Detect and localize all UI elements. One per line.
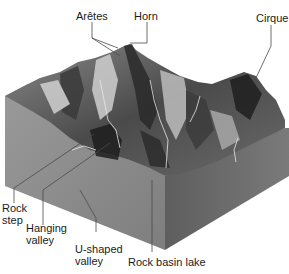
label-cirque: Cirque [256,12,288,24]
aretes-leader [92,22,118,48]
label-hanging-valley: Hanging valley [26,222,67,246]
label-u-shaped-valley: U-shaped valley [75,243,123,267]
label-rock-basin-lake: Rock basin lake [128,256,206,268]
label-rock-step: Rock step [2,202,27,226]
label-horn: Horn [134,10,158,22]
horn-leader [130,22,147,43]
cirque-leader [255,25,271,80]
label-aretes: Arêtes [76,10,108,22]
